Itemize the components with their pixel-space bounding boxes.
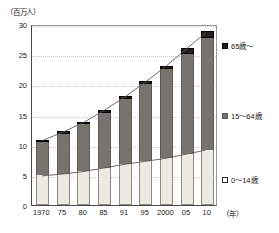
bar-segment-15-64: [36, 142, 49, 176]
bar-segment-65-plus: [201, 31, 214, 38]
legend-item-young: 0～14歳: [222, 174, 258, 185]
bar-2000: [160, 66, 173, 205]
plot-area: [31, 25, 217, 206]
bar-85: [98, 110, 111, 205]
bar-segment-0-14: [119, 164, 132, 205]
legend-label: 0～14歳: [231, 174, 258, 185]
bar-segment-15-64: [139, 84, 152, 161]
y-axis-tick-label: 25: [0, 51, 27, 60]
x-axis-tick-label: 91: [120, 208, 128, 217]
legend-item-mid: 15～64歳: [222, 110, 262, 121]
x-axis-tick-label: 1970: [33, 208, 50, 217]
bar-segment-0-14: [57, 174, 70, 205]
x-axis-tick-label: 95: [140, 208, 148, 217]
x-axis-tick-label: 2000: [157, 208, 174, 217]
x-axis-unit-label: （年）: [222, 208, 243, 219]
old-swatch-icon: [222, 43, 228, 49]
bar-segment-0-14: [201, 150, 214, 206]
y-axis-tick-label: 0: [0, 202, 27, 211]
x-axis-tick-label: 05: [182, 208, 190, 217]
bar-segment-15-64: [181, 54, 194, 154]
bar-1970: [36, 140, 49, 205]
bar-segment-0-14: [160, 158, 173, 205]
bar-75: [57, 131, 70, 205]
bar-91: [119, 96, 132, 205]
bar-segment-15-64: [201, 38, 214, 150]
bar-80: [77, 122, 90, 205]
bar-segment-15-64: [98, 113, 111, 168]
legend-label: 15～64歳: [231, 110, 262, 121]
bar-95: [139, 81, 152, 205]
bar-segment-15-64: [57, 134, 70, 174]
bar-segment-0-14: [77, 171, 90, 205]
young-swatch-icon: [222, 177, 228, 183]
y-axis-tick-label: 30: [0, 21, 27, 30]
legend-item-old: 65歳～: [222, 40, 253, 51]
population-stacked-bar-chart: （百万人） 051015202530 197075808591952000051…: [0, 0, 279, 233]
bar-segment-15-64: [160, 69, 173, 158]
x-axis-tick-label: 80: [78, 208, 86, 217]
y-axis-tick-label: 20: [0, 81, 27, 90]
legend-label: 65歳～: [231, 40, 253, 51]
bar-10: [201, 31, 214, 205]
y-axis-tick-label: 15: [0, 111, 27, 120]
y-axis-unit-label: （百万人）: [6, 6, 40, 17]
bar-segment-0-14: [36, 175, 49, 205]
bar-segment-0-14: [98, 168, 111, 205]
bar-segment-0-14: [139, 161, 152, 205]
y-axis-tick-label: 5: [0, 171, 27, 180]
bar-segment-15-64: [77, 124, 90, 171]
x-axis-tick-label: 85: [99, 208, 107, 217]
bar-segment-0-14: [181, 154, 194, 205]
y-axis-tick-label: 10: [0, 141, 27, 150]
x-axis-tick-label: 10: [202, 208, 210, 217]
x-axis-tick-label: 75: [58, 208, 66, 217]
mid-swatch-icon: [222, 113, 228, 119]
bar-group: [32, 26, 216, 205]
bar-segment-15-64: [119, 99, 132, 164]
bar-05: [181, 48, 194, 205]
